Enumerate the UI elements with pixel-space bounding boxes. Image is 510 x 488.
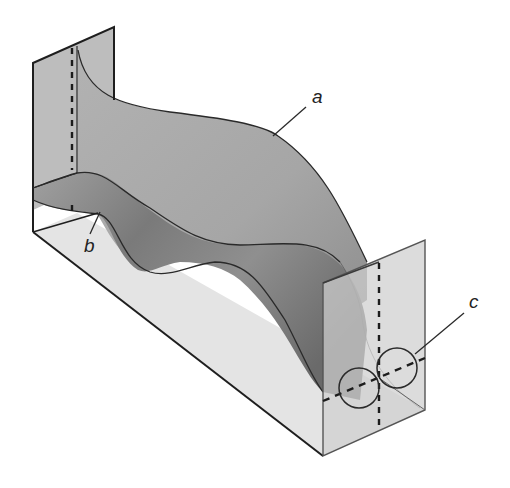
leader-line-a xyxy=(273,107,306,136)
label-b: b xyxy=(84,235,95,256)
label-c: c xyxy=(469,291,479,312)
channel-surface-diagram: a b c xyxy=(0,0,510,488)
label-a: a xyxy=(312,86,323,107)
